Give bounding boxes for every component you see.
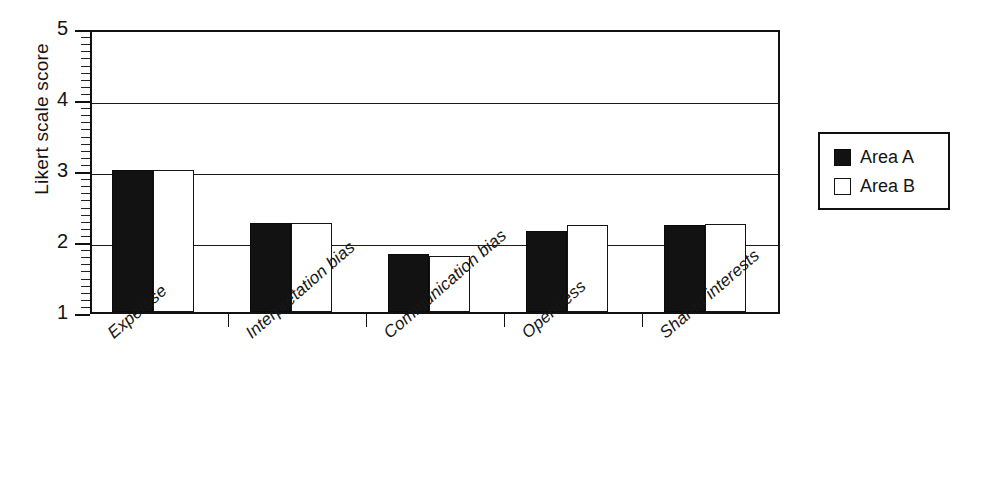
y-minor-tick	[81, 80, 90, 81]
y-major-tick-3	[75, 172, 90, 174]
y-minor-tick	[81, 186, 90, 187]
y-minor-tick	[81, 300, 90, 301]
y-minor-tick	[81, 115, 90, 116]
y-minor-tick	[81, 200, 90, 201]
y-minor-tick	[81, 129, 90, 130]
legend-label: Area A	[860, 147, 914, 168]
y-minor-tick	[81, 122, 90, 123]
x-axis-separator	[642, 314, 643, 327]
y-tick-label-4: 4	[28, 88, 68, 111]
y-major-tick-4	[75, 101, 90, 103]
legend-item-area-b: Area B	[834, 172, 948, 201]
y-minor-tick	[81, 293, 90, 294]
y-major-tick-1	[75, 314, 90, 316]
x-axis-separator	[366, 314, 367, 327]
y-minor-tick	[81, 151, 90, 152]
plot-area	[90, 30, 780, 314]
y-tick-label-2: 2	[28, 230, 68, 253]
y-minor-tick	[81, 193, 90, 194]
y-major-tick-5	[75, 30, 90, 32]
y-minor-tick	[81, 179, 90, 180]
bar-chart-figure: Likert scale score 12345 ExpertiseInterp…	[0, 0, 984, 483]
y-minor-tick	[81, 66, 90, 67]
y-minor-tick	[81, 94, 90, 95]
y-minor-tick	[81, 250, 90, 251]
legend-item-area-a: Area A	[834, 143, 948, 172]
y-minor-tick	[81, 229, 90, 230]
y-minor-tick	[81, 44, 90, 45]
y-major-tick-2	[75, 243, 90, 245]
y-minor-tick	[81, 257, 90, 258]
y-minor-tick	[81, 165, 90, 166]
y-minor-tick	[81, 264, 90, 265]
y-minor-tick	[81, 271, 90, 272]
legend-swatch-open-square-icon	[834, 178, 851, 195]
y-minor-tick	[81, 222, 90, 223]
chart-legend: Area AArea B	[818, 132, 950, 210]
y-minor-tick	[81, 279, 90, 280]
y-minor-tick	[81, 286, 90, 287]
y-minor-tick	[81, 208, 90, 209]
y-tick-label-5: 5	[28, 17, 68, 40]
legend-swatch-filled-square-icon	[834, 149, 851, 166]
y-minor-tick	[81, 144, 90, 145]
y-minor-tick	[81, 73, 90, 74]
y-tick-label-1: 1	[28, 301, 68, 324]
y-minor-tick	[81, 158, 90, 159]
x-axis-separator	[228, 314, 229, 327]
x-axis-separator	[504, 314, 505, 327]
y-minor-tick	[81, 307, 90, 308]
y-minor-tick	[81, 108, 90, 109]
legend-label: Area B	[860, 176, 915, 197]
y-minor-tick	[81, 215, 90, 216]
gridline-4	[92, 103, 778, 104]
y-minor-tick	[81, 58, 90, 59]
y-minor-tick	[81, 236, 90, 237]
y-minor-tick	[81, 137, 90, 138]
y-tick-label-3: 3	[28, 159, 68, 182]
y-minor-tick	[81, 51, 90, 52]
y-minor-tick	[81, 87, 90, 88]
gridline-3	[92, 174, 778, 175]
y-minor-tick	[81, 37, 90, 38]
